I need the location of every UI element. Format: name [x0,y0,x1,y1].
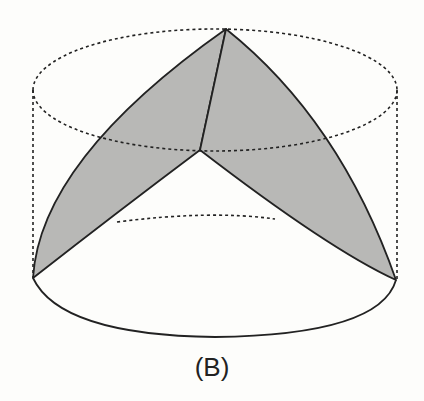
figure-label: (B) [0,352,424,383]
left-shaded-plane [33,29,226,278]
bottom-ellipse-back [117,215,275,222]
right-shaded-plane [200,29,396,280]
cylinder-diagram [0,0,424,401]
bottom-ellipse-front [33,278,396,337]
